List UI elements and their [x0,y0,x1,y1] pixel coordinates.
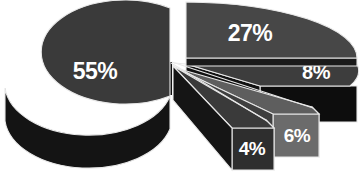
pie-slice-27-side [186,58,357,66]
pie-slice-6-label: 6% [284,125,311,146]
pie-slice-4-label: 4% [239,138,266,159]
pie-slice-27[interactable]: 27% [186,2,357,66]
separator-ray-8 [174,63,186,64]
pie-chart-figure: 55% 8% 27% 6% 4% [0,0,359,185]
pie-slice-55-top [41,0,170,104]
pie-slice-55-label: 55% [73,58,118,84]
pie-slice-55[interactable]: 55% [5,0,172,168]
pie-chart-svg: 55% 8% 27% 6% 4% [0,0,359,185]
pie-slice-27-label: 27% [228,20,273,46]
